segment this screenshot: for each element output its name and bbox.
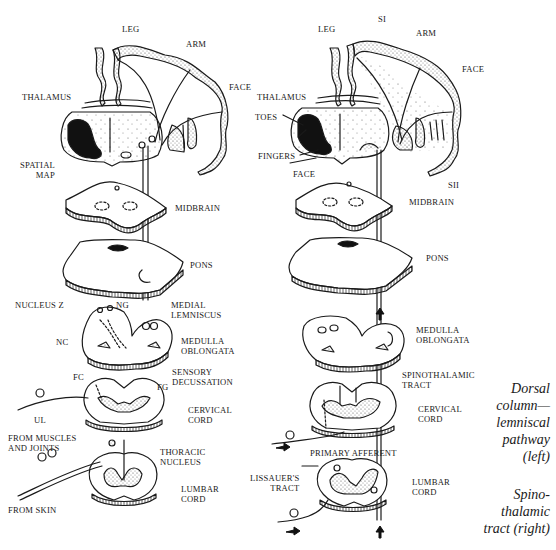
left-lumbar-cord	[89, 440, 157, 506]
label-right-pons: PONS	[426, 253, 449, 263]
right-pons	[289, 238, 412, 295]
label-nucleus-z: NUCLEUS Z	[15, 300, 64, 310]
label-si: SI	[378, 14, 386, 24]
left-medulla	[82, 306, 172, 371]
label-right-leg: LEG	[318, 24, 335, 34]
label-fc: FC	[73, 372, 84, 382]
label-sensory-decussation: SENSORY DECUSSATION	[172, 367, 233, 387]
label-right-midbrain: MIDBRAIN	[409, 197, 454, 207]
up-arrow-icon	[376, 526, 384, 538]
right-cervical-cord	[310, 383, 396, 438]
label-thoracic-nucleus: THORACIC NUCLEUS	[160, 447, 206, 467]
label-ul: UL	[34, 415, 46, 425]
label-primary-afferent: PRIMARY AFFERENT	[310, 448, 397, 458]
label-right-face-cortex: FACE	[462, 64, 484, 74]
pathway-illustration	[0, 0, 556, 550]
label-spinothalamic-tract: SPINOTHALAMIC TRACT	[402, 370, 475, 390]
label-nc: NC	[56, 337, 68, 347]
label-left-midbrain: MIDBRAIN	[175, 203, 220, 213]
label-left-face: FACE	[229, 82, 251, 92]
label-medial-lemniscus: MEDIAL LEMNISCUS	[171, 300, 222, 320]
label-right-lumbar-cord: LUMBAR CORD	[412, 477, 450, 497]
caption-spinothalamic: Spino- thalamic tract (right)	[484, 486, 551, 537]
label-toes: TOES	[255, 112, 277, 122]
label-left-pons: PONS	[190, 260, 213, 270]
label-ng: NG	[116, 300, 129, 310]
ul-afferent	[18, 397, 88, 410]
label-from-muscles-and-joints: FROM MUSCLES AND JOINTS	[8, 433, 77, 453]
label-right-face-thalamus: FACE	[293, 169, 315, 179]
figure: LEG ARM FACE THALAMUS SPATIAL MAP MIDBRA…	[0, 0, 556, 550]
right-medulla	[303, 316, 404, 372]
label-fingers: FINGERS	[258, 151, 295, 161]
caption-dorsal-column: Dorsal column— lemniscal pathway (left)	[496, 380, 550, 465]
label-left-arm: ARM	[186, 39, 206, 49]
label-from-skin: FROM SKIN	[8, 505, 56, 515]
left-midbrain	[66, 182, 166, 233]
label-sii: SII	[448, 180, 459, 190]
label-lissauers-tract: LISSAUER'S TRACT	[250, 473, 299, 493]
right-thalamus	[283, 95, 389, 164]
right-arrow-icon	[286, 527, 300, 535]
label-fg: FG	[157, 382, 168, 392]
label-right-arm: ARM	[416, 28, 436, 38]
left-thalamus	[61, 100, 162, 166]
label-left-cervical-cord: CERVICAL CORD	[188, 405, 232, 425]
label-left-leg: LEG	[122, 24, 139, 34]
label-left-medulla: MEDULLA OBLONGATA	[181, 336, 235, 356]
right-arrow-icon	[276, 443, 290, 451]
left-pons	[63, 240, 183, 299]
label-right-thalamus: THALAMUS	[257, 92, 306, 102]
label-right-medulla: MEDULLA OBLONGATA	[416, 325, 470, 345]
label-left-lumbar-cord: LUMBAR CORD	[181, 484, 219, 504]
label-right-cervical-cord: CERVICAL CORD	[418, 404, 462, 424]
ul-ganglion	[36, 389, 44, 397]
left-cervical-cord	[84, 378, 164, 431]
label-spatial-map: SPATIAL MAP	[20, 160, 55, 180]
label-left-thalamus: THALAMUS	[22, 92, 71, 102]
